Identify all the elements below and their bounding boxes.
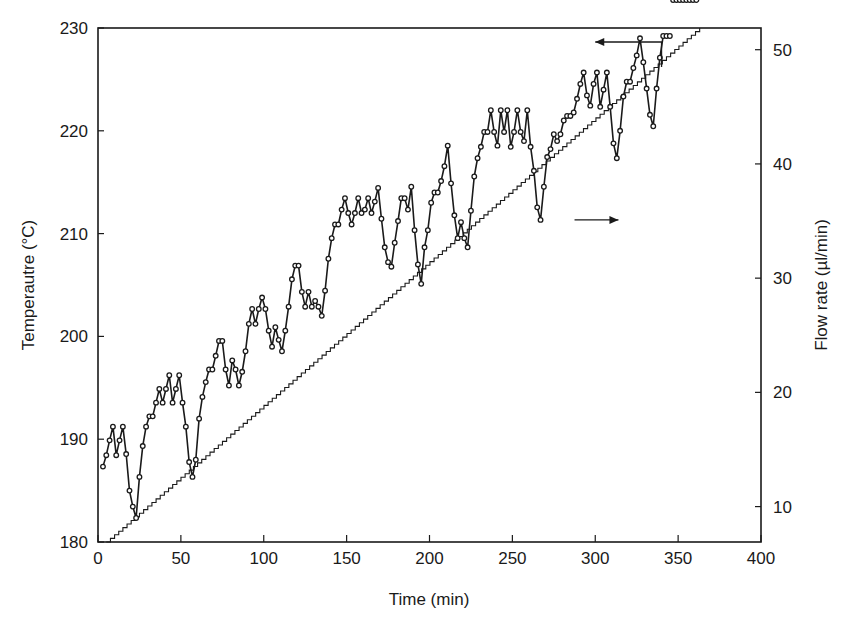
flow-rate-marker: [442, 164, 447, 169]
x-axis-ticks: 050100150200250300350400: [93, 535, 775, 568]
flow-rate-marker: [290, 277, 295, 282]
right-arrow-head-icon: [609, 216, 618, 224]
flow-rate-marker: [256, 307, 261, 312]
flow-rate-marker: [160, 400, 165, 405]
flow-rate-marker: [518, 130, 523, 135]
flow-rate-marker: [528, 144, 533, 149]
dual-axis-line-chart: 050100150200250300350400 180190200210220…: [0, 0, 848, 620]
flow-rate-marker: [154, 400, 159, 405]
flow-rate-marker: [117, 438, 122, 443]
flow-rate-marker: [343, 196, 348, 201]
flow-rate-marker: [319, 314, 324, 319]
y-left-tick-label: 180: [60, 533, 88, 552]
flow-rate-marker: [273, 325, 278, 330]
flow-rate-marker: [485, 130, 490, 135]
flow-rate-marker: [164, 387, 169, 392]
flow-rate-marker: [180, 400, 185, 405]
flow-rate-marker: [326, 256, 331, 261]
flow-rate-marker: [263, 307, 268, 312]
flow-rate-marker: [489, 108, 494, 113]
flow-rate-marker: [545, 155, 550, 160]
flow-rate-marker: [558, 132, 563, 137]
flow-rate-marker: [435, 190, 440, 195]
flow-rate-marker: [329, 236, 334, 241]
flow-rate-marker: [276, 338, 281, 343]
flow-rate-marker: [578, 82, 583, 87]
flow-rate-marker: [402, 196, 407, 201]
flow-rate-marker: [140, 444, 145, 449]
flow-rate-marker: [492, 130, 497, 135]
flow-rate-marker: [445, 143, 450, 148]
flow-rate-marker: [203, 380, 208, 385]
flow-rate-marker: [280, 349, 285, 354]
flow-rate-marker: [621, 94, 626, 99]
flow-rate-marker: [452, 213, 457, 218]
flow-rate-series: [101, 0, 699, 520]
flow-rate-marker: [376, 186, 381, 191]
flow-rate-marker: [608, 105, 613, 110]
flow-rate-marker: [479, 144, 484, 149]
flow-rate-marker: [552, 132, 557, 137]
flow-rate-marker: [644, 86, 649, 91]
x-tick-label: 200: [415, 549, 443, 568]
flow-rate-marker: [416, 262, 421, 267]
flow-rate-marker: [595, 70, 600, 75]
flow-rate-marker: [369, 211, 374, 216]
flow-rate-marker: [177, 373, 182, 378]
flow-rate-marker: [107, 438, 112, 443]
flow-rate-marker: [641, 60, 646, 65]
flow-rate-marker: [525, 108, 530, 113]
y-right-tick-label: 40: [773, 155, 792, 174]
flow-rate-marker: [197, 416, 202, 421]
flow-rate-marker: [532, 168, 537, 173]
flow-rate-marker: [230, 358, 235, 363]
x-tick-label: 150: [332, 549, 360, 568]
flow-rate-marker: [396, 219, 401, 224]
flow-rate-marker: [296, 263, 301, 268]
y-left-tick-label: 190: [60, 430, 88, 449]
flow-rate-marker: [502, 130, 507, 135]
flow-rate-marker: [373, 199, 378, 204]
flow-rate-marker: [571, 110, 576, 115]
x-tick-label: 250: [498, 549, 526, 568]
flow-rate-marker: [505, 108, 510, 113]
flow-rate-marker: [498, 108, 503, 113]
flow-rate-marker: [561, 118, 566, 123]
flow-rate-marker: [575, 97, 580, 102]
flow-rate-marker: [611, 141, 616, 146]
flow-rate-marker: [124, 452, 129, 457]
flow-rate-marker: [223, 367, 228, 372]
flow-rate-marker: [389, 264, 394, 269]
flow-rate-marker: [127, 488, 132, 493]
flow-rate-marker: [210, 367, 215, 372]
flow-rate-marker: [167, 373, 172, 378]
flow-rate-marker: [475, 156, 480, 161]
flow-rate-marker: [336, 222, 341, 227]
flow-rate-marker: [585, 93, 590, 98]
x-tick-label: 50: [171, 549, 190, 568]
flow-rate-marker: [253, 322, 258, 327]
flow-rate-marker: [213, 354, 218, 359]
flow-rate-marker: [412, 228, 417, 233]
flow-rate-marker: [591, 82, 596, 87]
flow-rate-marker: [548, 147, 553, 152]
flow-rate-marker: [542, 184, 547, 189]
flow-rate-marker: [601, 87, 606, 92]
flow-rate-marker: [439, 179, 444, 184]
y-right-axis-label: Flow rate (µl/min): [812, 219, 831, 351]
flow-rate-marker: [465, 245, 470, 250]
flow-rate-marker: [200, 395, 205, 400]
flow-rate-marker: [339, 207, 344, 212]
flow-rate-marker: [220, 339, 225, 344]
flow-rate-marker: [250, 307, 255, 312]
flow-rate-marker: [193, 457, 198, 462]
flow-rate-marker: [306, 290, 311, 295]
flow-rate-marker: [187, 460, 192, 465]
flow-rate-marker: [522, 139, 527, 144]
flow-rate-marker: [174, 387, 179, 392]
flow-rate-marker: [631, 66, 636, 71]
flow-rate-marker: [137, 475, 142, 480]
y-right-tick-label: 50: [773, 41, 792, 60]
y-right-tick-label: 30: [773, 269, 792, 288]
flow-rate-marker: [581, 70, 586, 75]
